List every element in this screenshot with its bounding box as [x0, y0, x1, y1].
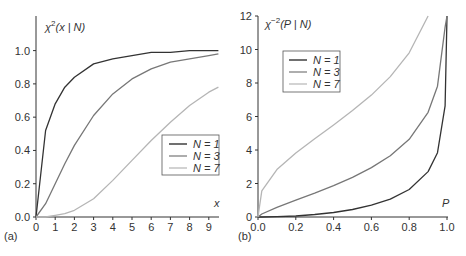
- series-line: [258, 16, 447, 217]
- svg-text:0.2: 0.2: [15, 178, 30, 190]
- x-ticks-a: 0123456789: [33, 217, 212, 233]
- svg-text:1.0: 1.0: [15, 45, 30, 57]
- series-line: [258, 16, 447, 217]
- series-line: [258, 16, 428, 217]
- legend-item-n7: N = 7: [313, 78, 340, 90]
- svg-text:10: 10: [240, 44, 252, 56]
- svg-text:0.4: 0.4: [15, 144, 30, 156]
- legend-item-n7: N = 7: [193, 162, 220, 174]
- y-ticks-b: 024681012: [240, 10, 258, 223]
- figure: 0.00.20.40.60.81.0 0123456789 χ2(x | N) …: [0, 0, 466, 256]
- svg-text:4: 4: [246, 144, 252, 156]
- svg-text:3: 3: [91, 221, 97, 233]
- series-line: [36, 51, 218, 217]
- panel-label-b: (b): [238, 230, 251, 242]
- svg-text:1: 1: [52, 221, 58, 233]
- panel-label-a: (a): [4, 230, 17, 242]
- svg-text:0.6: 0.6: [15, 111, 30, 123]
- svg-text:9: 9: [206, 221, 212, 233]
- svg-text:0.4: 0.4: [326, 221, 341, 233]
- svg-text:8: 8: [246, 77, 252, 89]
- svg-text:0.6: 0.6: [364, 221, 379, 233]
- svg-text:12: 12: [240, 10, 252, 22]
- legend-item-n1: N = 1: [313, 54, 340, 66]
- chart-b: 024681012 0.00.20.40.60.81.0 χ−2(P | N) …: [238, 10, 455, 242]
- legend-item-n3: N = 3: [313, 66, 340, 78]
- chart-a: 0.00.20.40.60.81.0 0123456789 χ2(x | N) …: [4, 16, 220, 242]
- legend-item-n3: N = 3: [193, 150, 220, 162]
- x-axis-label-b: P: [442, 197, 450, 209]
- svg-text:8: 8: [187, 221, 193, 233]
- svg-text:0.8: 0.8: [15, 78, 30, 90]
- svg-text:5: 5: [129, 221, 135, 233]
- legend-item-n1: N = 1: [193, 138, 220, 150]
- svg-text:6: 6: [148, 221, 154, 233]
- plot-lines-a: [36, 51, 218, 217]
- legend-b: N = 1 N = 3 N = 7: [283, 51, 340, 92]
- plot-lines-b: [258, 16, 447, 217]
- svg-text:2: 2: [71, 221, 77, 233]
- svg-text:0.0: 0.0: [250, 221, 265, 233]
- x-ticks-b: 0.00.20.40.60.81.0: [250, 217, 454, 233]
- svg-text:6: 6: [246, 111, 252, 123]
- y-axis-label-b: χ−2(P | N): [264, 16, 312, 30]
- svg-text:0: 0: [33, 221, 39, 233]
- svg-text:4: 4: [110, 221, 116, 233]
- svg-text:0.2: 0.2: [288, 221, 303, 233]
- y-ticks-a: 0.00.20.40.60.81.0: [15, 45, 36, 223]
- y-axis-label-a: χ2(x | N): [44, 19, 86, 33]
- svg-text:0.8: 0.8: [402, 221, 417, 233]
- svg-text:0.0: 0.0: [15, 211, 30, 223]
- svg-text:2: 2: [246, 178, 252, 190]
- x-axis-label-a: x: [213, 197, 220, 209]
- svg-text:1.0: 1.0: [439, 221, 454, 233]
- svg-text:7: 7: [167, 221, 173, 233]
- legend-a: N = 1 N = 3 N = 7: [162, 135, 220, 175]
